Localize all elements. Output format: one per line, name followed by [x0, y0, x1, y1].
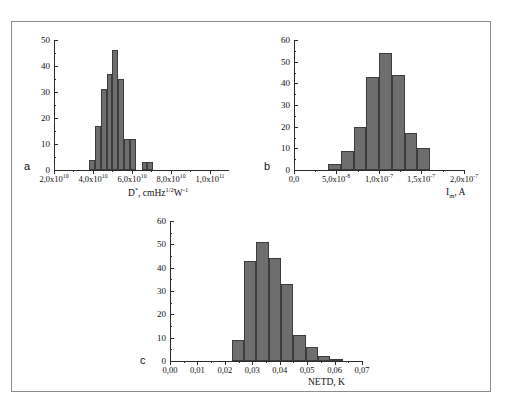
panel-b-xtick-label-2-exp: -7: [388, 173, 393, 179]
panel-a-xtick-label-0: 2,0x1010: [32, 174, 76, 184]
panel-a-ytick-50: [54, 40, 58, 41]
bar: [354, 127, 367, 170]
bar: [293, 335, 305, 361]
panel-a-xtick-label-1-mantissa: 4,0x10: [78, 174, 101, 184]
bar: [330, 359, 342, 361]
bar: [379, 53, 392, 170]
panel-b-ytick-minor-55: [294, 51, 296, 52]
panel-c-axis-title: NETD, K: [308, 377, 345, 388]
panel-c-ytick-label-30: 30: [146, 287, 166, 296]
panel-b-xtick-minor-1: [358, 170, 359, 172]
panel-c-xtick-minor-3: [266, 361, 267, 363]
panel-a-ytick-label-40: 40: [30, 62, 50, 71]
panel-b-plot-area: 0 10 20 30 40 50 60: [294, 40, 464, 170]
panel-b-xtick-label-2: 1,0x10-7: [357, 174, 401, 184]
panel-a-ytick-30: [54, 92, 58, 93]
panel-a-axis-title-rest-b: W: [174, 188, 183, 198]
panel-a-ytick-label-10: 10: [30, 140, 50, 149]
panel-b-ytick-10: [294, 148, 298, 149]
panel-a-plot-area: 0 10 20 30 40 50: [54, 40, 229, 170]
panel-a-xtick-label-3-exp: 10: [180, 173, 186, 179]
panel-a-ytick-minor-5: [54, 157, 56, 158]
panel-a-ytick-10: [54, 144, 58, 145]
panel-b-ytick-40: [294, 83, 298, 84]
panel-a-xtick-label-2: 6,0x1010: [110, 174, 154, 184]
panel-c-ytick-10: [170, 338, 174, 339]
panel-b-xtick-label-4: 2,0x10-7: [442, 174, 486, 184]
panel-a-ytick-20: [54, 118, 58, 119]
panel-a: a 0 10 20 30: [12, 22, 252, 207]
panel-b-xtick-label-3-exp: -7: [430, 173, 435, 179]
panel-a-axis-title-symbol: D: [128, 188, 135, 198]
bar: [328, 164, 341, 171]
panel-b-xtick-label-1-mantissa: 5,0x10: [322, 174, 345, 184]
panel-c-ytick-label-40: 40: [146, 264, 166, 273]
bar: [366, 77, 379, 170]
panel-b-xtick-label-0: 0,0: [272, 174, 316, 184]
panel-c-xtick-minor-1: [211, 361, 212, 363]
panel-a-ytick-label-20: 20: [30, 114, 50, 123]
panel-a-ytick-minor-35: [54, 79, 56, 80]
panel-c-ytick-minor-15: [170, 326, 172, 327]
panel-a-ytick-minor-45: [54, 53, 56, 54]
panel-a-axis-title-sup-neg1: -1: [183, 186, 188, 193]
panel-c-ytick-30: [170, 291, 174, 292]
bar: [269, 258, 281, 361]
panel-c-xtick-label-7: 0,07: [346, 365, 378, 375]
panel-a-ytick-minor-15: [54, 131, 56, 132]
panel-a-xtick-label-0-mantissa: 2,0x10: [39, 174, 62, 184]
panel-a-xtick-label-0-exp: 10: [63, 173, 69, 179]
panel-b-ytick-label-40: 40: [270, 79, 290, 88]
panel-a-xtick-label-1: 4,0x1010: [71, 174, 115, 184]
panel-a-axis-title-rest-a: , cmHz: [138, 188, 165, 198]
panel-c-xtick-minor-6: [348, 361, 349, 363]
bar: [306, 347, 318, 361]
bar: [417, 148, 430, 170]
panel-b-axis-title-rest: , A: [454, 187, 465, 197]
bar: [392, 75, 405, 170]
panel-b-ytick-minor-15: [294, 138, 296, 139]
panel-c-xtick-minor-5: [321, 361, 322, 363]
panel-c-ytick-60: [170, 221, 174, 222]
panel-b-xtick-label-0-mantissa: 0,0: [289, 174, 300, 184]
panel-a-axis-title: D*, cmHz1/2W-1: [128, 188, 188, 199]
panel-b-ytick-label-60: 60: [270, 36, 290, 45]
panel-c-ytick-minor-55: [170, 233, 172, 234]
panel-a-xtick-label-4-exp: 11: [219, 173, 225, 179]
panel-a-xtick-minor-3: [190, 170, 191, 172]
panel-a-xtick-label-2-exp: 10: [141, 173, 147, 179]
panel-b-xtick-label-3-mantissa: 1,5x10: [407, 174, 430, 184]
panel-b-ytick-label-50: 50: [270, 58, 290, 67]
panel-c-ytick-20: [170, 314, 174, 315]
panel-c-ytick-minor-35: [170, 279, 172, 280]
bar: [256, 242, 268, 361]
panel-b-ytick-minor-25: [294, 116, 296, 117]
panel-a-xtick-label-4: 1,0x1011: [188, 174, 232, 184]
panel-c-ytick-label-60: 60: [146, 217, 166, 226]
bar: [244, 261, 256, 361]
panel-b-ytick-minor-45: [294, 73, 296, 74]
panel-b-xtick-label-4-exp: -7: [473, 173, 478, 179]
panel-b-ytick-label-10: 10: [270, 144, 290, 153]
panel-b-ytick-minor-5: [294, 159, 296, 160]
bar: [232, 340, 244, 361]
panel-b-xtick-label-3: 1,5x10-7: [399, 174, 443, 184]
panel-c-plot-area: 0 10 20 30 40 50 60: [170, 221, 362, 361]
bar: [130, 139, 136, 170]
bar: [281, 284, 293, 361]
panel-a-xtick-label-2-mantissa: 6,0x10: [117, 174, 140, 184]
panel-b-ytick-50: [294, 62, 298, 63]
bar: [341, 151, 354, 171]
panel-c-ytick-label-10: 10: [146, 334, 166, 343]
panel-b-ytick-20: [294, 127, 298, 128]
panel-c-xtick-minor-4: [293, 361, 294, 363]
panel-a-xtick-label-3-mantissa: 8,0x10: [156, 174, 179, 184]
panel-c-ytick-50: [170, 244, 174, 245]
panel-c-ytick-minor-5: [170, 349, 172, 350]
panel-c-ytick-40: [170, 268, 174, 269]
panel-b-xtick-label-1-exp: -8: [345, 173, 350, 179]
panel-a-xtick-label-3: 8,0x1010: [149, 174, 193, 184]
panel-c-xtick-minor-2: [239, 361, 240, 363]
panel-c-ytick-minor-45: [170, 256, 172, 257]
panel-b-xtick-label-4-mantissa: 2,0x10: [450, 174, 473, 184]
